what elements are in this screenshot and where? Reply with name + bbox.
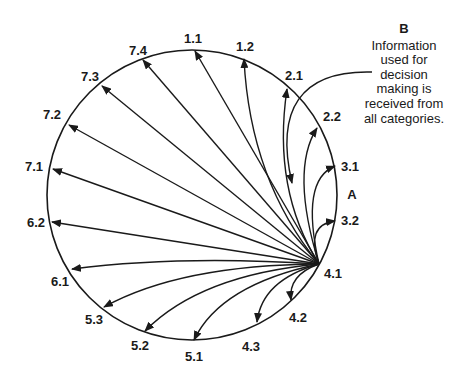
node-label-1-2: 1.2 <box>236 39 254 54</box>
note-b: B Information used for decision making i… <box>344 22 464 126</box>
node-label-7-1: 7.1 <box>25 159 43 174</box>
note-b-line: received from <box>344 97 464 112</box>
node-label-5-3: 5.3 <box>85 312 103 327</box>
node-label-7-2: 7.2 <box>43 107 61 122</box>
note-b-line: making is <box>344 82 464 97</box>
arrow-to-7-2 <box>69 125 319 264</box>
arrow-to-6-2 <box>52 222 319 264</box>
arrow-to-1-1 <box>195 51 319 264</box>
node-label-5-1: 5.1 <box>185 349 203 364</box>
region-label-a: A <box>347 187 356 202</box>
node-label-4-3: 4.3 <box>242 339 260 354</box>
node-label-7-4: 7.4 <box>129 43 147 58</box>
note-b-line: decision <box>344 68 464 83</box>
arrow-to-7-1 <box>53 169 319 264</box>
node-label-6-2: 6.2 <box>27 215 45 230</box>
node-label-1-1: 1.1 <box>184 31 202 46</box>
node-label-3-1: 3.1 <box>341 159 359 174</box>
node-label-5-2: 5.2 <box>131 338 149 353</box>
arrow-to-5-3 <box>104 264 319 307</box>
node-label-4-2: 4.2 <box>289 310 307 325</box>
node-label-7-3: 7.3 <box>81 69 99 84</box>
arrow-to-2-2 <box>304 128 319 264</box>
note-b-line: all categories. <box>344 112 464 127</box>
note-b-line: Information <box>344 39 464 54</box>
note-b-title: B <box>344 22 464 37</box>
arrow-to-3-2 <box>315 221 335 264</box>
node-label-4-1: 4.1 <box>324 266 342 281</box>
node-label-3-2: 3.2 <box>341 213 359 228</box>
note-b-line: used for <box>344 53 464 68</box>
node-label-2-2: 2.2 <box>323 109 341 124</box>
node-label-2-1: 2.1 <box>285 68 303 83</box>
node-label-6-1: 6.1 <box>51 274 69 289</box>
